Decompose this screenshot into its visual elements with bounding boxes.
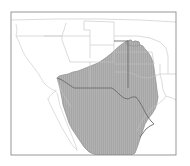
map-canvas — [0, 0, 190, 166]
range-map-figure — [0, 0, 190, 166]
